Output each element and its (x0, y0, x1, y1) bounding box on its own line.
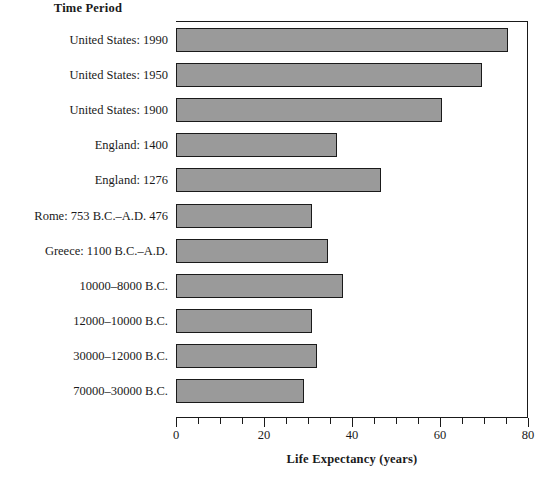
category-label: United States: 1950 (0, 63, 168, 87)
category-label: England: 1400 (0, 133, 168, 157)
category-label: United States: 1900 (0, 98, 168, 122)
x-tick-label: 0 (156, 428, 196, 443)
minor-tick (220, 418, 221, 424)
x-axis-tick-labels: 020406080 (0, 428, 545, 446)
category-label: 70000–30000 B.C. (0, 379, 168, 403)
category-label: Greece: 1100 B.C.–A.D. (0, 239, 168, 263)
category-label: Rome: 753 B.C.–A.D. 476 (0, 204, 168, 228)
category-label: England: 1276 (0, 168, 168, 192)
major-tick (528, 418, 529, 427)
minor-tick (242, 418, 243, 424)
major-tick (264, 418, 265, 427)
major-tick (440, 418, 441, 427)
bar (176, 168, 381, 192)
bar-row: 12000–10000 B.C. (0, 309, 545, 333)
bar-row: United States: 1950 (0, 63, 545, 87)
category-label: 10000–8000 B.C. (0, 274, 168, 298)
bar (176, 309, 312, 333)
x-tick-label: 20 (244, 428, 284, 443)
x-tick-label: 60 (420, 428, 460, 443)
x-axis-title: Life Expectancy (years) (176, 452, 528, 467)
minor-tick (308, 418, 309, 424)
minor-tick (330, 418, 331, 424)
bar (176, 133, 337, 157)
bar-row: England: 1276 (0, 168, 545, 192)
x-tick-label: 40 (332, 428, 372, 443)
bar-row: 10000–8000 B.C. (0, 274, 545, 298)
bar (176, 379, 304, 403)
minor-tick (198, 418, 199, 424)
bar (176, 344, 317, 368)
minor-tick (396, 418, 397, 424)
y-axis-title: Time Period (0, 1, 176, 16)
category-label: 30000–12000 B.C. (0, 344, 168, 368)
bar-rows: United States: 1990United States: 1950Un… (0, 21, 545, 418)
minor-tick (418, 418, 419, 424)
bar (176, 204, 312, 228)
bar-row: Greece: 1100 B.C.–A.D. (0, 239, 545, 263)
bar (176, 63, 482, 87)
minor-tick (484, 418, 485, 424)
category-label: 12000–10000 B.C. (0, 309, 168, 333)
minor-tick (462, 418, 463, 424)
major-tick (176, 418, 177, 427)
minor-tick (286, 418, 287, 424)
major-tick (352, 418, 353, 427)
category-label: United States: 1990 (0, 28, 168, 52)
bar-row: England: 1400 (0, 133, 545, 157)
minor-tick (374, 418, 375, 424)
x-tick-label: 80 (508, 428, 545, 443)
bar (176, 28, 508, 52)
bar (176, 239, 328, 263)
life-expectancy-bar-chart: Time Period United States: 1990United St… (0, 0, 545, 479)
bar-row: United States: 1990 (0, 28, 545, 52)
bar (176, 98, 442, 122)
bar-row: United States: 1900 (0, 98, 545, 122)
bar (176, 274, 343, 298)
bar-row: Rome: 753 B.C.–A.D. 476 (0, 204, 545, 228)
bar-row: 70000–30000 B.C. (0, 379, 545, 403)
bar-row: 30000–12000 B.C. (0, 344, 545, 368)
minor-tick (506, 418, 507, 424)
